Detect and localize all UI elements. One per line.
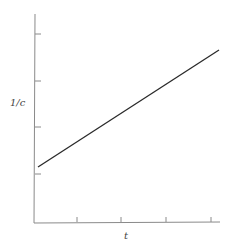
x-axis [34, 222, 220, 223]
x-axis-label: t [124, 230, 129, 241]
x-ticks [77, 217, 211, 222]
data-line [38, 50, 219, 167]
y-axis [34, 14, 35, 223]
line-chart: 1/c t [0, 0, 240, 243]
y-ticks [35, 34, 41, 174]
y-axis-label: 1/c [10, 97, 26, 108]
